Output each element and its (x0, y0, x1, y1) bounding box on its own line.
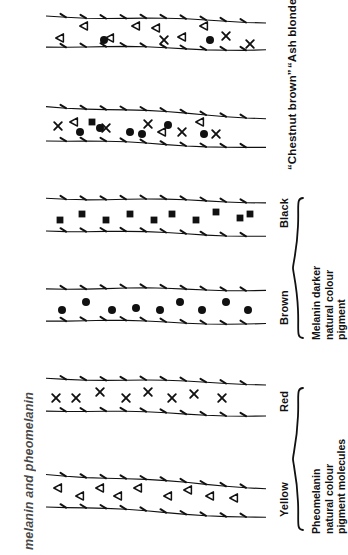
brace-pheomelanin (292, 386, 305, 532)
strand-red (44, 368, 266, 424)
strand-brown (44, 278, 266, 334)
group-melanin-text: Melanin darker natural colour pigment (310, 266, 348, 340)
label-brown: Brown (278, 290, 290, 325)
group-melanin-line3: pigment (335, 266, 348, 340)
group-melanin-line1: Melanin darker (310, 266, 323, 340)
label-red: Red (278, 391, 290, 412)
label-chestnut-brown: “Chestnut brown” (286, 69, 298, 170)
strand-chestnut-brown (44, 96, 266, 156)
group-pheomelanin-line2: natural colour (323, 439, 336, 534)
brace-melanin (292, 196, 305, 340)
group-pheomelanin-line3: pigment molecules (335, 439, 348, 534)
label-yellow: Yellow (278, 482, 290, 517)
group-melanin-line2: natural colour (323, 266, 336, 340)
label-ash-blonde: “Ash blonde” (286, 0, 298, 68)
strand-yellow (44, 462, 266, 524)
label-black: Black (278, 198, 290, 228)
strand-black (44, 188, 266, 244)
group-pheomelanin-line1: Pheomelanin (310, 439, 323, 534)
strand-ash-blonde (44, 6, 266, 66)
figure-caption: melanin and pheomelanin (22, 300, 36, 550)
group-pheomelanin-text: Pheomelanin natural colour pigment molec… (310, 439, 348, 534)
